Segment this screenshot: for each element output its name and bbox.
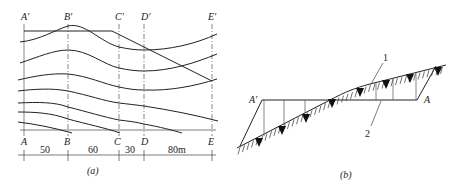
hatch-stroke [342, 96, 344, 103]
label-e-prime: E′ [207, 11, 217, 22]
caption-b: (b) [340, 169, 352, 181]
hatch-stroke [396, 78, 398, 85]
panel-a: A′ B′ C′ D′ E′ A B C D E 50 60 30 80m (a… [18, 11, 218, 177]
hatch-stroke [310, 110, 312, 117]
hatch-stroke [378, 83, 380, 90]
label-a-prime: A′ [20, 11, 30, 22]
ground-marker [434, 67, 442, 76]
contour-line [18, 74, 217, 90]
contour-line [18, 89, 218, 121]
label-c: C [114, 136, 121, 147]
hatch-stroke [238, 147, 240, 154]
hatch-stroke [337, 97, 339, 104]
hatch-stroke [274, 129, 276, 136]
hatch-stroke [423, 71, 425, 78]
label-b: B [64, 136, 70, 147]
hatch-stroke [265, 134, 267, 141]
label-a: A [20, 136, 28, 147]
hatch-stroke [351, 92, 353, 99]
label-e: E [207, 136, 214, 147]
label-c-prime: C′ [115, 11, 125, 22]
design-line [24, 31, 212, 81]
hatch-stroke [288, 122, 290, 129]
panel-b: A′ A 1 2 (b) [237, 52, 446, 181]
hatch-stroke [405, 76, 407, 83]
hatch-stroke [315, 108, 317, 115]
hatch-stroke [427, 70, 429, 77]
hatch-stroke [297, 117, 299, 124]
hatch-stroke [247, 143, 249, 150]
hatch-stroke [292, 120, 294, 127]
figure: A′ B′ C′ D′ E′ A B C D E 50 60 30 80m (a… [0, 0, 459, 193]
hatch-stroke [301, 115, 303, 122]
label-b-prime: B′ [64, 11, 73, 22]
contour-line [20, 50, 217, 71]
hatch-stroke [400, 77, 402, 84]
label-d-prime: D′ [140, 11, 151, 22]
contour-line [20, 25, 217, 50]
hatch-stroke [252, 140, 254, 147]
hatch-stroke [414, 74, 416, 81]
dimension-cd: 30 [125, 144, 135, 155]
callout-leader-2 [371, 101, 381, 126]
hatch-stroke [270, 131, 272, 138]
label-d: D [140, 136, 149, 147]
hatch-stroke [355, 90, 357, 97]
caption-a: (a) [87, 165, 99, 177]
contour-line [18, 122, 72, 133]
dimension-de: 80m [168, 144, 186, 155]
hatch-stroke [369, 85, 371, 92]
label-a-prime-section: A′ [248, 94, 258, 105]
ground-hatching [238, 67, 443, 155]
dimension-ab: 50 [40, 144, 50, 155]
hatch-stroke [324, 103, 326, 110]
ground-marker [302, 114, 310, 123]
hatch-stroke [319, 106, 321, 113]
ground-marker [356, 88, 364, 97]
contour-line [18, 102, 182, 133]
label-a-section: A [423, 94, 431, 105]
callout-2: 2 [365, 128, 370, 139]
hatch-stroke [243, 145, 245, 152]
hatch-stroke [418, 73, 420, 80]
ground-marker [406, 74, 414, 83]
dimension-bc: 60 [88, 144, 98, 155]
hatch-stroke [373, 84, 375, 91]
callout-1: 1 [383, 52, 388, 63]
hatch-stroke [364, 87, 366, 94]
ground-marker [255, 138, 263, 147]
